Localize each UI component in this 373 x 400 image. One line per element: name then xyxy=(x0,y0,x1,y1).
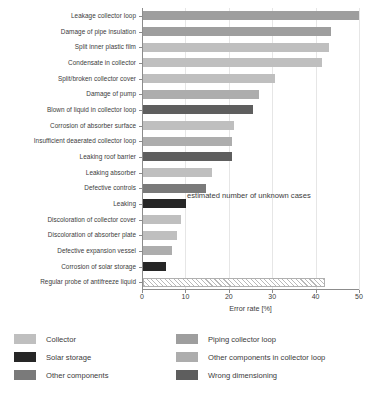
legend-swatch xyxy=(14,334,36,344)
bar xyxy=(143,262,166,271)
legend-swatch xyxy=(14,370,36,380)
y-tick-mark xyxy=(139,16,142,17)
category-label: Condensate in collector xyxy=(68,59,136,67)
bar xyxy=(143,11,359,20)
category-label: Blown of liquid in collector loop xyxy=(47,106,136,114)
category-label: Split inner plastic film xyxy=(75,43,136,51)
y-axis-line xyxy=(142,8,143,290)
figure: Leakage collector loopDamage of pipe ins… xyxy=(0,0,373,400)
bar xyxy=(143,152,232,161)
legend-label: Other components xyxy=(46,371,108,380)
legend-swatch xyxy=(176,334,198,344)
legend: CollectorSolar storageOther components P… xyxy=(14,330,359,386)
x-axis-line xyxy=(142,289,359,290)
y-tick-mark xyxy=(139,126,142,127)
y-tick-mark xyxy=(139,235,142,236)
bar-chart: Leakage collector loopDamage of pipe ins… xyxy=(0,8,373,304)
category-label: Corrosion of solar storage xyxy=(61,263,136,271)
category-label: Damage of pump xyxy=(86,90,136,98)
x-tick-label: 40 xyxy=(304,293,328,300)
category-label: Leakage collector loop xyxy=(71,12,136,20)
x-tick-label: 10 xyxy=(173,293,197,300)
y-tick-mark xyxy=(139,47,142,48)
bar xyxy=(143,27,331,36)
bar xyxy=(143,278,325,287)
legend-entry: Piping collector loop xyxy=(176,330,325,348)
y-tick-mark xyxy=(139,173,142,174)
y-tick-mark xyxy=(139,110,142,111)
bar xyxy=(143,231,177,240)
category-label: Defective controls xyxy=(84,184,136,192)
y-tick-mark xyxy=(139,157,142,158)
y-tick-mark xyxy=(139,32,142,33)
bar xyxy=(143,246,172,255)
plot-area xyxy=(142,8,359,290)
category-label: Leaking xyxy=(113,200,136,208)
bar xyxy=(143,105,253,114)
category-axis-labels: Leakage collector loopDamage of pipe ins… xyxy=(0,8,140,290)
bar xyxy=(143,74,275,83)
bar xyxy=(143,215,181,224)
legend-label: Solar storage xyxy=(46,353,91,362)
gridline xyxy=(359,8,360,290)
bar xyxy=(143,137,232,146)
legend-swatch xyxy=(14,352,36,362)
legend-column-1: CollectorSolar storageOther components xyxy=(14,330,108,384)
legend-label: Wrong dimensioning xyxy=(208,371,277,380)
category-label: Insufficient deaerated collector loop xyxy=(34,137,136,145)
category-label: Split/broken collector cover xyxy=(58,75,136,83)
legend-entry: Other components xyxy=(14,366,108,384)
x-axis-title: Error rate [%] xyxy=(142,304,359,313)
bar xyxy=(143,43,329,52)
legend-entry: Solar storage xyxy=(14,348,108,366)
category-label: Discoloration of collector cover xyxy=(47,216,136,224)
category-label: Defective expansion vessel xyxy=(57,247,136,255)
x-tick-label: 0 xyxy=(130,293,154,300)
x-tick-label: 20 xyxy=(217,293,241,300)
y-tick-mark xyxy=(139,204,142,205)
y-tick-mark xyxy=(139,282,142,283)
annotation-unknown-cases: estimated number of unknown cases xyxy=(187,191,311,200)
x-tick-label: 30 xyxy=(260,293,284,300)
y-tick-mark xyxy=(139,79,142,80)
x-tick-label: 50 xyxy=(347,293,371,300)
bar xyxy=(143,199,186,208)
y-tick-mark xyxy=(139,63,142,64)
legend-column-2: Piping collector loopOther components in… xyxy=(176,330,325,384)
y-tick-mark xyxy=(139,251,142,252)
bar xyxy=(143,121,234,130)
y-tick-mark xyxy=(139,267,142,268)
category-label: Regular probe of antifreeze liquid xyxy=(40,278,136,286)
category-label: Corrosion of absorber surface xyxy=(50,122,136,130)
bar xyxy=(143,168,212,177)
category-label: Leaking absorber xyxy=(86,169,136,177)
category-label: Discoloration of absorber plate xyxy=(48,231,136,239)
legend-label: Other components in collector loop xyxy=(208,353,325,362)
legend-swatch xyxy=(176,352,198,362)
legend-swatch xyxy=(176,370,198,380)
legend-label: Piping collector loop xyxy=(208,335,276,344)
bar xyxy=(143,90,259,99)
y-tick-mark xyxy=(139,141,142,142)
bar xyxy=(143,58,322,67)
legend-entry: Wrong dimensioning xyxy=(176,366,325,384)
y-tick-mark xyxy=(139,220,142,221)
category-label: Leaking roof barrier xyxy=(80,153,136,161)
legend-entry: Other components in collector loop xyxy=(176,348,325,366)
y-tick-mark xyxy=(139,188,142,189)
y-tick-mark xyxy=(139,94,142,95)
legend-label: Collector xyxy=(46,335,76,344)
category-label: Damage of pipe insulation xyxy=(61,28,136,36)
legend-entry: Collector xyxy=(14,330,108,348)
